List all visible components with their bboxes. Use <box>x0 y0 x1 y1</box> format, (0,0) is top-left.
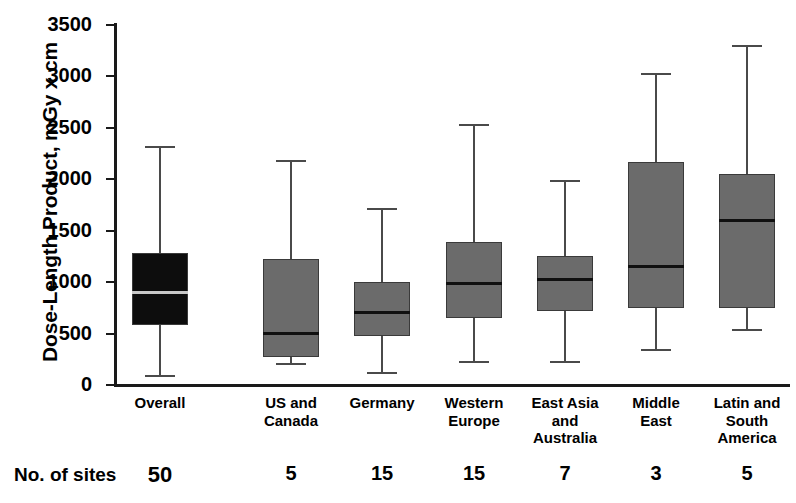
y-tick-1000 <box>106 281 115 283</box>
whisker-lower <box>746 308 748 330</box>
whisker-upper <box>473 125 475 242</box>
boxplot-overall <box>132 0 188 503</box>
y-tick-label-500: 500 <box>22 323 92 343</box>
y-tick-2500 <box>106 127 115 129</box>
whisker-upper <box>564 181 566 256</box>
site-count-us-and-canada: 5 <box>251 462 331 485</box>
whisker-upper <box>655 74 657 162</box>
y-tick-3000 <box>106 75 115 77</box>
site-count-germany: 15 <box>342 462 422 485</box>
cap-lower <box>367 372 397 374</box>
median-line <box>354 311 410 314</box>
whisker-lower <box>159 325 161 375</box>
boxplot-germany <box>354 0 410 503</box>
median-line <box>446 282 502 285</box>
median-line <box>132 291 188 294</box>
whisker-lower <box>381 336 383 374</box>
y-tick-label-3000: 3000 <box>22 65 92 85</box>
whisker-upper <box>159 147 161 253</box>
site-count-western-europe: 15 <box>434 462 514 485</box>
cap-lower <box>732 329 762 331</box>
box-iqr <box>628 162 684 308</box>
cap-lower <box>641 349 671 351</box>
cap-lower <box>459 361 489 363</box>
cap-lower <box>276 363 306 365</box>
whisker-upper <box>381 209 383 282</box>
median-line <box>537 278 593 281</box>
cap-upper <box>732 45 762 47</box>
y-tick-label-1500: 1500 <box>22 220 92 240</box>
site-count-overall: 50 <box>120 462 200 488</box>
cap-lower <box>550 361 580 363</box>
no-of-sites-label: No. of sites <box>14 464 116 486</box>
boxplot-figure: Dose-Length Product, mGy x cm 0500100015… <box>0 0 796 503</box>
cap-upper <box>367 208 397 210</box>
y-tick-500 <box>106 333 115 335</box>
whisker-lower <box>473 318 475 362</box>
whisker-lower <box>655 308 657 350</box>
cap-upper <box>550 180 580 182</box>
box-iqr <box>537 256 593 312</box>
y-tick-0 <box>106 384 115 386</box>
site-count-east-asia-and-australia: 7 <box>525 462 605 485</box>
cap-lower <box>145 375 175 377</box>
median-line <box>628 265 684 268</box>
y-tick-2000 <box>106 178 115 180</box>
box-iqr <box>446 242 502 319</box>
box-iqr <box>132 253 188 325</box>
y-tick-label-0: 0 <box>22 374 92 394</box>
median-line <box>719 219 775 222</box>
y-tick-label-1000: 1000 <box>22 271 92 291</box>
x-label-overall: Overall <box>105 394 215 412</box>
whisker-lower <box>564 311 566 361</box>
site-count-latin-and-south-america: 5 <box>707 462 787 485</box>
x-label-latin-and-south-america: Latin and South America <box>692 394 796 447</box>
y-tick-1500 <box>106 230 115 232</box>
median-line <box>263 332 319 335</box>
cap-upper <box>459 124 489 126</box>
y-tick-3500 <box>106 24 115 26</box>
y-tick-label-2000: 2000 <box>22 168 92 188</box>
site-count-middle-east: 3 <box>616 462 696 485</box>
cap-upper <box>276 160 306 162</box>
box-iqr <box>354 282 410 335</box>
cap-upper <box>145 146 175 148</box>
whisker-upper <box>746 46 748 174</box>
whisker-upper <box>290 161 292 259</box>
y-tick-label-2500: 2500 <box>22 117 92 137</box>
box-iqr <box>263 259 319 357</box>
cap-upper <box>641 73 671 75</box>
y-tick-label-3500: 3500 <box>22 14 92 34</box>
box-iqr <box>719 174 775 309</box>
